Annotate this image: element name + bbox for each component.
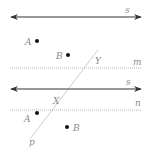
point-a-top [35, 39, 39, 43]
line-m-label: m [133, 57, 142, 67]
intersection-x-label: X [52, 96, 60, 106]
line-s-top-label: s [125, 5, 130, 15]
point-b-top [66, 53, 70, 57]
intersection-y-label: Y [95, 56, 102, 66]
line-n-label: n [135, 98, 141, 108]
point-a-bottom-label: A [23, 114, 31, 124]
point-b-top-label: B [55, 51, 63, 61]
point-a-bottom [35, 111, 39, 115]
point-b-bottom-label: B [72, 123, 80, 133]
transversal-line-p [30, 50, 98, 139]
transversal-p-label: p [29, 137, 35, 147]
point-a-top-label: A [24, 37, 32, 47]
point-b-bottom [65, 125, 69, 129]
line-s-bottom-label: s [126, 77, 131, 87]
geometry-diagram: s A B m Y s X n A B p [0, 0, 154, 159]
